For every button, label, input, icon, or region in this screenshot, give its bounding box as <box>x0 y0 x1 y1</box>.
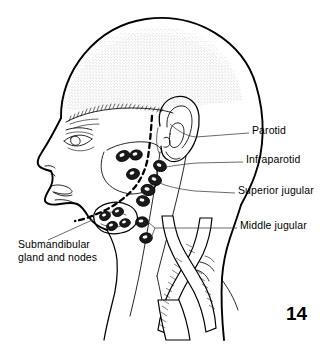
label-superior-jugular: Superior jugular <box>238 184 314 197</box>
carotid-vessels <box>158 216 216 340</box>
figure-number: 14 <box>286 303 307 325</box>
label-middle-jugular: Middle jugular <box>240 219 307 232</box>
lymph-node <box>111 206 124 218</box>
ear <box>157 96 200 161</box>
leader-superior-jugular <box>160 183 235 193</box>
lymph-node <box>139 232 153 244</box>
lymph-node <box>129 149 144 161</box>
label-submandibular-line1: Submandibular <box>18 238 90 250</box>
leader-parotid <box>170 124 249 137</box>
stippled-scalp-shading <box>60 28 242 116</box>
label-submandibular-line2: gland and nodes <box>18 251 97 263</box>
eye <box>64 128 94 151</box>
leader-infraparotid <box>166 162 243 167</box>
label-submandibular: Submandibular gland and nodes <box>18 238 122 263</box>
lymph-node <box>119 218 132 229</box>
leader-middle-jugular-branch-a <box>148 222 155 228</box>
lymph-node-chain <box>98 149 168 244</box>
label-parotid: Parotid <box>252 124 286 137</box>
leader-middle-jugular-branch-b <box>151 228 155 238</box>
lymph-node <box>152 159 168 174</box>
label-infraparotid: Infraparotid <box>246 153 300 166</box>
leader-submandibular <box>48 219 95 240</box>
anatomy-illustration <box>0 0 328 346</box>
leader-lines <box>48 124 249 240</box>
lymph-node <box>125 167 141 181</box>
lymph-node <box>136 195 150 207</box>
anatomical-figure: Parotid Infraparotid Superior jugular Mi… <box>0 0 328 346</box>
lymph-node <box>115 149 132 164</box>
